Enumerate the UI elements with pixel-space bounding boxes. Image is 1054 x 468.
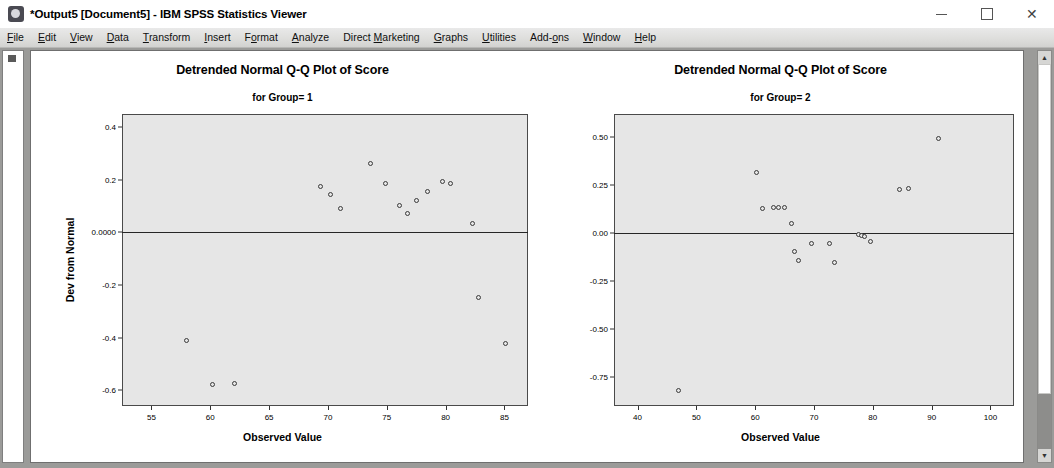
x-tick-label: 65 bbox=[265, 413, 274, 422]
zero-reference-line bbox=[122, 232, 528, 233]
title-bar: *Output5 [Document5] - IBM SPSS Statisti… bbox=[0, 0, 1054, 28]
y-tick-label: 0.00 bbox=[566, 229, 608, 238]
x-axis-title: Observed Value bbox=[35, 431, 530, 443]
y-tick-mark bbox=[610, 281, 614, 282]
minimize-icon bbox=[936, 14, 947, 15]
x-tick-label: 85 bbox=[500, 413, 509, 422]
y-tick-mark bbox=[118, 390, 122, 391]
x-tick-label: 80 bbox=[868, 413, 877, 422]
menu-item-edit[interactable]: Edit bbox=[31, 28, 63, 47]
menu-item-insert[interactable]: Insert bbox=[197, 28, 237, 47]
menu-item-graphs[interactable]: Graphs bbox=[427, 28, 475, 47]
y-tick-label: -0.50 bbox=[566, 325, 608, 334]
x-tick-label: 90 bbox=[927, 413, 936, 422]
y-tick-label: -0.2 bbox=[74, 280, 116, 289]
menu-item-analyze[interactable]: Analyze bbox=[285, 28, 336, 47]
y-tick-label: 0.50 bbox=[566, 133, 608, 142]
data-point bbox=[789, 221, 794, 226]
y-tick-label: -0.75 bbox=[566, 373, 608, 382]
y-tick-mark bbox=[610, 233, 614, 234]
x-tick-label: 100 bbox=[984, 413, 997, 422]
y-tick-label: 0.4 bbox=[74, 123, 116, 132]
zero-reference-line bbox=[614, 233, 1014, 234]
data-point bbox=[414, 198, 419, 203]
y-tick-label: -0.6 bbox=[74, 386, 116, 395]
maximize-icon bbox=[981, 8, 993, 20]
x-tick-mark bbox=[210, 406, 211, 410]
menu-item-add-ons[interactable]: Add-ons bbox=[523, 28, 576, 47]
scrollbar-track[interactable] bbox=[1038, 394, 1051, 451]
y-tick-mark bbox=[118, 127, 122, 128]
plot-area bbox=[122, 114, 528, 406]
y-tick-mark bbox=[118, 337, 122, 338]
x-tick-mark bbox=[151, 406, 152, 410]
data-point bbox=[440, 179, 445, 184]
chart-title: Detrended Normal Q-Q Plot of Score bbox=[536, 63, 1024, 77]
window-title: *Output5 [Document5] - IBM SPSS Statisti… bbox=[30, 8, 307, 20]
output-content-pane: Detrended Normal Q-Q Plot of Scorefor Gr… bbox=[30, 50, 1024, 463]
x-tick-label: 80 bbox=[441, 413, 450, 422]
viewer-body: Detrended Normal Q-Q Plot of Scorefor Gr… bbox=[0, 48, 1054, 468]
data-point bbox=[827, 241, 832, 246]
y-axis-title: Dev from Normal bbox=[64, 218, 76, 303]
chart-subtitle: for Group= 1 bbox=[35, 92, 530, 103]
x-tick-mark bbox=[328, 406, 329, 410]
close-icon: ✕ bbox=[1026, 7, 1038, 21]
x-tick-label: 40 bbox=[633, 413, 642, 422]
charts-container: Detrended Normal Q-Q Plot of Scorefor Gr… bbox=[31, 51, 1024, 462]
menu-item-view[interactable]: View bbox=[63, 28, 100, 47]
output-node-icon[interactable] bbox=[8, 55, 16, 62]
data-point bbox=[832, 260, 837, 265]
x-tick-label: 70 bbox=[810, 413, 819, 422]
x-tick-mark bbox=[873, 406, 874, 410]
x-tick-label: 50 bbox=[692, 413, 701, 422]
menu-item-utilities[interactable]: Utilities bbox=[475, 28, 523, 47]
x-tick-mark bbox=[990, 406, 991, 410]
x-tick-label: 55 bbox=[147, 413, 156, 422]
menu-item-direct-marketing[interactable]: Direct Marketing bbox=[336, 28, 426, 47]
menu-item-help[interactable]: Help bbox=[627, 28, 663, 47]
y-tick-label: -0.25 bbox=[566, 277, 608, 286]
menu-item-file[interactable]: File bbox=[0, 28, 31, 47]
maximize-button[interactable] bbox=[964, 0, 1009, 28]
x-tick-mark bbox=[387, 406, 388, 410]
minimize-button[interactable] bbox=[919, 0, 964, 28]
data-point bbox=[368, 161, 373, 166]
vertical-scrollbar[interactable]: ▲ ▼ bbox=[1037, 50, 1052, 463]
spss-viewer-window: *Output5 [Document5] - IBM SPSS Statisti… bbox=[0, 0, 1054, 468]
x-tick-mark bbox=[932, 406, 933, 410]
data-point bbox=[760, 206, 765, 211]
data-point bbox=[868, 239, 873, 244]
menu-item-data[interactable]: Data bbox=[100, 28, 136, 47]
scroll-down-arrow[interactable]: ▼ bbox=[1038, 449, 1051, 462]
data-point bbox=[184, 338, 189, 343]
y-tick-label: 0.2 bbox=[74, 175, 116, 184]
data-point bbox=[771, 205, 776, 210]
y-tick-label: 0.0000 bbox=[74, 228, 116, 237]
y-tick-mark bbox=[610, 377, 614, 378]
spss-viewer-icon bbox=[8, 6, 24, 22]
y-tick-label: -0.4 bbox=[74, 333, 116, 342]
x-tick-mark bbox=[696, 406, 697, 410]
menu-item-window[interactable]: Window bbox=[576, 28, 627, 47]
y-tick-mark bbox=[118, 284, 122, 285]
y-tick-mark bbox=[610, 329, 614, 330]
chart-title: Detrended Normal Q-Q Plot of Score bbox=[35, 63, 530, 77]
chart-group-2: Detrended Normal Q-Q Plot of Scorefor Gr… bbox=[536, 51, 1024, 462]
y-tick-mark bbox=[118, 179, 122, 180]
menu-item-transform[interactable]: Transform bbox=[136, 28, 197, 47]
plot-area bbox=[614, 114, 1014, 406]
menu-bar: FileEditViewDataTransformInsertFormatAna… bbox=[0, 28, 1054, 48]
menu-item-format[interactable]: Format bbox=[238, 28, 285, 47]
x-tick-label: 60 bbox=[206, 413, 215, 422]
chart-group-1: Detrended Normal Q-Q Plot of Scorefor Gr… bbox=[35, 51, 530, 462]
window-controls: ✕ bbox=[919, 0, 1054, 28]
y-tick-mark bbox=[610, 185, 614, 186]
outline-pane[interactable] bbox=[2, 50, 24, 463]
x-axis-title: Observed Value bbox=[536, 431, 1024, 443]
scroll-up-arrow[interactable]: ▲ bbox=[1038, 51, 1051, 64]
scrollbar-thumb[interactable] bbox=[1038, 64, 1051, 394]
y-tick-mark bbox=[610, 137, 614, 138]
x-tick-label: 70 bbox=[323, 413, 332, 422]
close-button[interactable]: ✕ bbox=[1009, 0, 1054, 28]
